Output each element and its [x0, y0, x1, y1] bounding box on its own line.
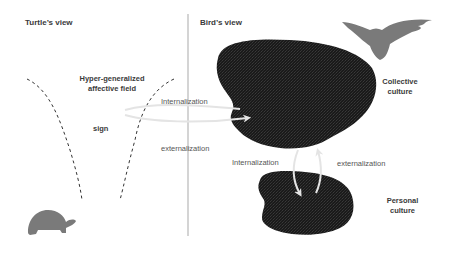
bird-view-title: Bird’s view — [200, 18, 242, 28]
collective-culture-label: Collective culture — [375, 77, 425, 97]
externalization-label-bottom: externalization — [337, 159, 385, 169]
sign-label: sign — [93, 124, 108, 134]
personal-culture-label: Personal culture — [380, 196, 425, 216]
affective-field-line1: Hyper-generalized — [62, 74, 162, 84]
collective-line1: Collective — [375, 77, 425, 87]
internalization-label-top: Internalization — [161, 97, 208, 107]
externalization-arrow-top — [125, 115, 248, 122]
turtle-icon — [28, 210, 76, 235]
personal-line2: culture — [380, 206, 425, 216]
collective-culture-blob — [217, 39, 377, 148]
internalization-label-bottom: Internalization — [232, 158, 279, 168]
bird-icon — [342, 19, 432, 60]
personal-culture-blob — [258, 171, 353, 235]
diagram: Turtle’s view Bird’s view Hyper-generali… — [0, 0, 456, 254]
externalization-label-top: externalization — [161, 144, 209, 154]
dashed-funnel-left — [27, 79, 82, 200]
affective-field-label: Hyper-generalized affective field — [62, 74, 162, 94]
collective-line2: culture — [375, 87, 425, 97]
personal-line1: Personal — [380, 196, 425, 206]
turtle-view-title: Turtle’s view — [25, 18, 73, 28]
affective-field-line2: affective field — [62, 84, 162, 94]
